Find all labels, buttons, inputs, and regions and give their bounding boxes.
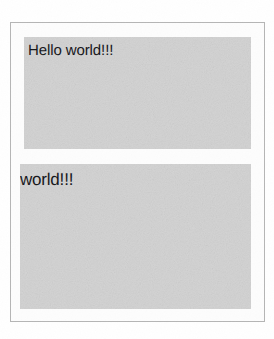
panel-echo[interactable]: world!!! xyxy=(20,164,251,309)
panel-greeting-label: Hello world!!! xyxy=(28,43,113,58)
panel-echo-label: world!!! xyxy=(20,171,73,188)
app-window: Hello world!!! world!!! xyxy=(10,22,265,322)
panel-greeting[interactable]: Hello world!!! xyxy=(24,37,251,149)
